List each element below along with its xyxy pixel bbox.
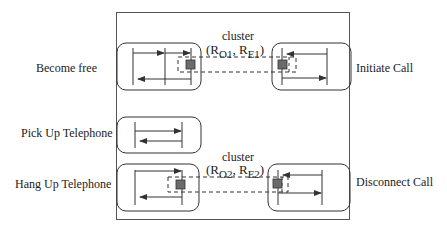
- pick-up-telephone-box: [117, 117, 201, 153]
- state-label-hang-up-telephone: Hang Up Telephone: [15, 177, 111, 191]
- cluster-1-node-right: [278, 60, 287, 69]
- cluster-1-node-left: [186, 60, 195, 69]
- cluster-2-node-right: [273, 179, 282, 188]
- state-label-become-free: Become free: [36, 61, 97, 75]
- state-label-initiate-call: Initiate Call: [356, 61, 413, 75]
- cluster-2-node-left: [176, 180, 185, 189]
- cluster-1-expression: (RO1, RE1): [206, 43, 264, 61]
- cluster-2-expression: (RO2, RE2): [206, 163, 264, 181]
- state-label-pick-up-telephone: Pick Up Telephone: [21, 126, 113, 140]
- state-label-disconnect-call: Disconnect Call: [356, 175, 433, 189]
- hang-up-telephone-box: [117, 164, 199, 211]
